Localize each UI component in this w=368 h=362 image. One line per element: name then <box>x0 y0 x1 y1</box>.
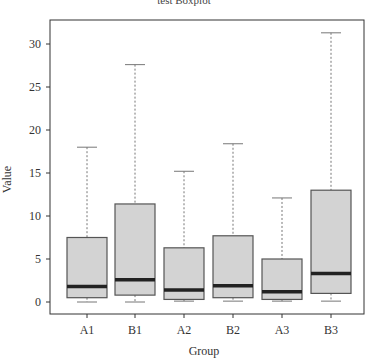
y-tick-label: 15 <box>29 166 41 180</box>
x-tick-label: A2 <box>177 323 192 337</box>
box-A1 <box>67 238 107 298</box>
y-tick-label: 30 <box>29 37 41 51</box>
x-tick-label: A1 <box>80 323 95 337</box>
y-tick-label: 20 <box>29 123 41 137</box>
boxplot-chart: 051015202530A1B1A2B2A3B3 <box>0 0 368 362</box>
x-tick-label: B1 <box>128 323 142 337</box>
x-tick-label: A3 <box>275 323 290 337</box>
y-tick-label: 5 <box>35 252 41 266</box>
y-tick-label: 0 <box>35 295 41 309</box>
x-tick-label: B2 <box>226 323 240 337</box>
box-B1 <box>115 204 155 295</box>
y-tick-label: 10 <box>29 209 41 223</box>
x-tick-label: B3 <box>324 323 338 337</box>
y-tick-label: 25 <box>29 80 41 94</box>
box-B2 <box>213 236 253 298</box>
box-B3 <box>311 190 351 293</box>
